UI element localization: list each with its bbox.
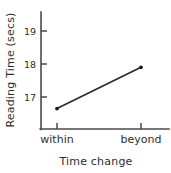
x-tick-label-beyond: beyond [121,133,162,146]
chart-figure: 19 18 17 within beyond Time change Readi… [0,0,171,173]
y-axis-title: Reading Time (secs) [4,12,17,127]
x-tick-label-within: within [40,133,73,146]
x-axis-title: Time change [58,155,132,168]
data-point-beyond [139,65,143,69]
line-chart-canvas: 19 18 17 within beyond Time change Readi… [0,0,171,173]
y-tick-label-17: 17 [24,92,36,103]
y-tick-label-19: 19 [24,26,36,37]
y-tick-label-18: 18 [24,59,36,70]
data-point-within [55,107,59,111]
